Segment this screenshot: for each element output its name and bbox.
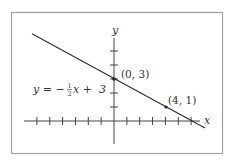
equation-label: y = − 1 2 x + 3 bbox=[32, 82, 106, 98]
x-axis-label: x bbox=[204, 114, 211, 127]
y-axis-label: y bbox=[111, 24, 119, 37]
fraction-numerator: 1 bbox=[68, 82, 72, 90]
equation-prefix: y = − bbox=[32, 83, 65, 96]
point-0-3 bbox=[112, 77, 116, 81]
equation-suffix: x + 3 bbox=[73, 83, 106, 96]
point-label-0-3: (0, 3) bbox=[121, 68, 149, 80]
fraction-denominator: 2 bbox=[68, 90, 72, 98]
point-label-4-1: (4, 1) bbox=[168, 94, 196, 106]
graph-canvas: y x (0, 3) (4, 1) y = − 1 2 x + 3 bbox=[0, 0, 234, 162]
